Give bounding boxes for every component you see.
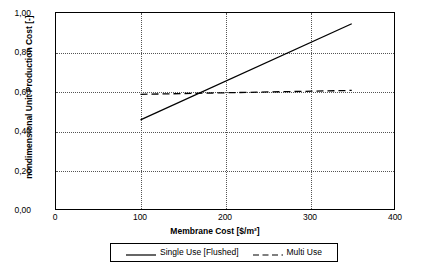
x-tick-label: 300	[290, 213, 330, 222]
y-axis-title: nondimensional Unit Production Cost [-]	[24, 0, 34, 202]
series-layer	[56, 13, 394, 209]
legend-entry-single-use: Single Use [Flushed]	[126, 248, 238, 257]
chart-container: 0,00 0,20 0,40 0,60 0,80 1,00 0 100 200 …	[0, 0, 430, 269]
series-line-multi-use	[141, 90, 352, 94]
legend-label-single-use: Single Use [Flushed]	[160, 248, 238, 257]
legend-label-multi-use: Multi Use	[287, 248, 322, 257]
x-tick-label: 400	[375, 213, 415, 222]
legend-swatch-dashed-icon	[253, 252, 283, 253]
series-line-single-use	[141, 24, 352, 120]
plot-area	[55, 12, 395, 210]
x-tick-label: 100	[120, 213, 160, 222]
y-tick-label: 0,00	[0, 206, 31, 215]
x-tick-label: 200	[205, 213, 245, 222]
x-axis-title: Membrane Cost [$/m²]	[0, 226, 430, 236]
legend-entry-multi-use: Multi Use	[253, 248, 322, 257]
x-tick-label: 0	[35, 213, 75, 222]
chart-legend: Single Use [Flushed] Multi Use	[110, 243, 338, 262]
legend-swatch-solid-icon	[126, 252, 156, 253]
